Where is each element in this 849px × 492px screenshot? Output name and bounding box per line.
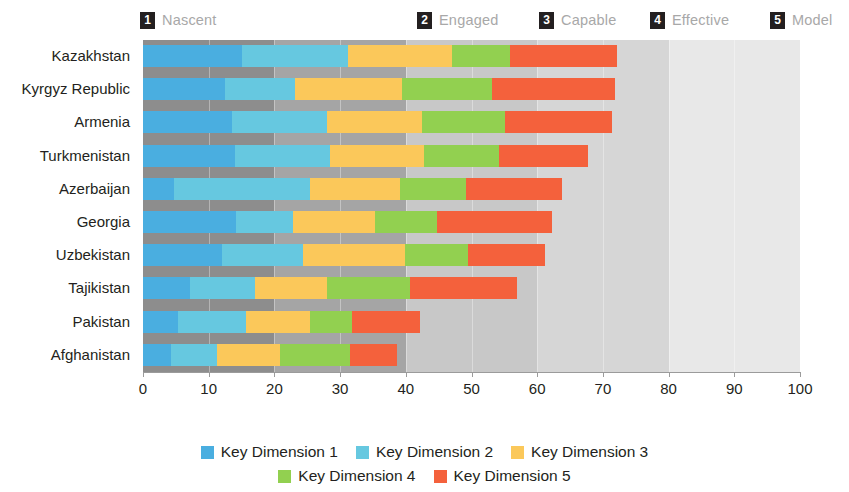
- x-axis-tick: [209, 372, 210, 377]
- legend-label: Key Dimension 5: [454, 467, 571, 485]
- bar-row: [143, 311, 800, 333]
- bar-segment[interactable]: [330, 145, 424, 167]
- bar-segment[interactable]: [174, 178, 310, 200]
- bar-segment[interactable]: [235, 145, 330, 167]
- series-legend: Key Dimension 1Key Dimension 2Key Dimens…: [0, 440, 849, 488]
- maturity-level-number: 4: [650, 12, 665, 29]
- bar-segment[interactable]: [217, 344, 279, 366]
- x-axis-tick: [406, 372, 407, 377]
- stacked-bar[interactable]: [143, 211, 552, 233]
- bar-segment[interactable]: [246, 311, 310, 333]
- bar-segment[interactable]: [402, 78, 492, 100]
- bar-segment[interactable]: [143, 111, 232, 133]
- maturity-level-3: 3Capable: [539, 10, 616, 30]
- bar-segment[interactable]: [225, 78, 295, 100]
- stacked-bar[interactable]: [143, 178, 562, 200]
- stacked-bar[interactable]: [143, 311, 420, 333]
- bar-segment[interactable]: [505, 111, 612, 133]
- bar-segment[interactable]: [143, 344, 171, 366]
- stacked-bar[interactable]: [143, 78, 615, 100]
- bar-row: [143, 244, 800, 266]
- legend-item[interactable]: Key Dimension 1: [201, 443, 338, 461]
- y-axis-label-georgia: Georgia: [0, 211, 130, 233]
- bar-segment[interactable]: [492, 78, 615, 100]
- legend-swatch-icon: [434, 470, 447, 483]
- bar-segment[interactable]: [327, 277, 410, 299]
- bar-segment[interactable]: [327, 111, 422, 133]
- bar-segment[interactable]: [375, 211, 437, 233]
- bar-segment[interactable]: [422, 111, 505, 133]
- legend-item[interactable]: Key Dimension 2: [356, 443, 493, 461]
- bar-segment[interactable]: [236, 211, 293, 233]
- bar-segment[interactable]: [143, 178, 174, 200]
- bar-segment[interactable]: [499, 145, 588, 167]
- y-axis-label-afghanistan: Afghanistan: [0, 344, 130, 366]
- bar-segment[interactable]: [171, 344, 217, 366]
- bar-segment[interactable]: [143, 45, 242, 67]
- bar-segment[interactable]: [190, 277, 254, 299]
- x-axis-tick-label: 40: [386, 380, 426, 397]
- bar-segment[interactable]: [293, 211, 375, 233]
- bar-row: [143, 178, 800, 200]
- bar-segment[interactable]: [232, 111, 327, 133]
- bar-segment[interactable]: [222, 244, 303, 266]
- legend-item[interactable]: Key Dimension 4: [278, 467, 415, 485]
- bar-segment[interactable]: [143, 244, 222, 266]
- maturity-level-number: 3: [539, 12, 554, 29]
- x-axis-tick-label: 100: [780, 380, 820, 397]
- bar-segment[interactable]: [303, 244, 405, 266]
- bar-segment[interactable]: [143, 277, 190, 299]
- bar-row: [143, 277, 800, 299]
- bar-segment[interactable]: [437, 211, 553, 233]
- maturity-level-label: Nascent: [162, 12, 217, 28]
- bar-segment[interactable]: [143, 145, 235, 167]
- y-axis-label-kyrgyz-republic: Kyrgyz Republic: [0, 78, 130, 100]
- bar-segment[interactable]: [178, 311, 246, 333]
- bar-segment[interactable]: [280, 344, 350, 366]
- maturity-level-label: Engaged: [439, 12, 498, 28]
- y-axis-label-kazakhstan: Kazakhstan: [0, 45, 130, 67]
- bar-segment[interactable]: [348, 45, 452, 67]
- legend-item[interactable]: Key Dimension 3: [511, 443, 648, 461]
- bar-segment[interactable]: [424, 145, 499, 167]
- stacked-bar[interactable]: [143, 145, 588, 167]
- bar-segment[interactable]: [143, 211, 236, 233]
- maturity-level-5: 5Model: [770, 10, 833, 30]
- bar-segment[interactable]: [143, 78, 225, 100]
- legend-swatch-icon: [356, 446, 369, 459]
- bar-segment[interactable]: [310, 178, 400, 200]
- x-axis-tick: [537, 372, 538, 377]
- bar-segment[interactable]: [452, 45, 510, 67]
- y-axis-label-pakistan: Pakistan: [0, 311, 130, 333]
- legend-label: Key Dimension 3: [531, 443, 648, 461]
- bar-segment[interactable]: [242, 45, 348, 67]
- bar-segment[interactable]: [400, 178, 466, 200]
- bar-segment[interactable]: [295, 78, 402, 100]
- bar-segment[interactable]: [310, 311, 352, 333]
- stacked-bar[interactable]: [143, 277, 517, 299]
- stacked-bar[interactable]: [143, 45, 617, 67]
- stacked-bar[interactable]: [143, 111, 612, 133]
- maturity-level-label: Capable: [561, 12, 616, 28]
- bar-segment[interactable]: [255, 277, 327, 299]
- legend-swatch-icon: [511, 446, 524, 459]
- y-axis-label-armenia: Armenia: [0, 111, 130, 133]
- bar-row: [143, 111, 800, 133]
- bar-segment[interactable]: [352, 311, 420, 333]
- bar-segment[interactable]: [510, 45, 617, 67]
- bar-segment[interactable]: [405, 244, 468, 266]
- x-axis-tick: [734, 372, 735, 377]
- legend-row: Key Dimension 4Key Dimension 5: [0, 464, 849, 488]
- bar-segment[interactable]: [410, 277, 517, 299]
- x-axis-tick-label: 20: [254, 380, 294, 397]
- legend-row: Key Dimension 1Key Dimension 2Key Dimens…: [0, 440, 849, 464]
- legend-item[interactable]: Key Dimension 5: [434, 467, 571, 485]
- bar-segment[interactable]: [466, 178, 562, 200]
- stacked-bar[interactable]: [143, 344, 397, 366]
- stacked-bar[interactable]: [143, 244, 545, 266]
- bar-segment[interactable]: [350, 344, 397, 366]
- x-axis-tick: [800, 372, 801, 377]
- x-axis-tick-label: 50: [452, 380, 492, 397]
- bar-segment[interactable]: [143, 311, 178, 333]
- bar-segment[interactable]: [468, 244, 545, 266]
